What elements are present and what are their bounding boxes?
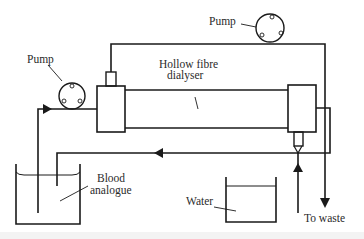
label-dialyser-2: dialyser	[167, 69, 204, 82]
label-blood-2: analogue	[90, 184, 132, 197]
top-pump-leader	[241, 24, 256, 27]
inlet-arrow-icon	[43, 104, 52, 114]
left-pump-leader	[48, 65, 62, 81]
label-blood-1: Blood	[97, 172, 125, 184]
top-pump	[256, 14, 284, 42]
label-water: Water	[186, 195, 213, 207]
left-pump	[59, 83, 85, 109]
label-pump-left: Pump	[27, 53, 54, 66]
left-pump-icon	[59, 83, 85, 109]
dialyser-left-nozzle	[106, 72, 116, 86]
water-leader	[214, 207, 236, 211]
label-pump-top: Pump	[209, 15, 236, 28]
label-waste: To waste	[304, 212, 345, 224]
blood-beaker	[16, 164, 80, 224]
bottom-border	[0, 232, 364, 239]
dialysis-circuit-diagram: Pump Pump Hollow fibre dialyser Blood an…	[0, 0, 364, 239]
water-beaker	[226, 177, 276, 222]
dialyser-leader	[195, 97, 198, 109]
water-arrow-icon	[293, 163, 303, 172]
dialyser-right-nozzle	[294, 132, 303, 146]
return-arrow-icon	[154, 148, 163, 158]
dialyser-right-cap	[288, 85, 316, 132]
dialyser-left-cap	[97, 86, 125, 132]
blood-leader	[60, 186, 88, 201]
waste-arrow-icon	[320, 198, 330, 208]
